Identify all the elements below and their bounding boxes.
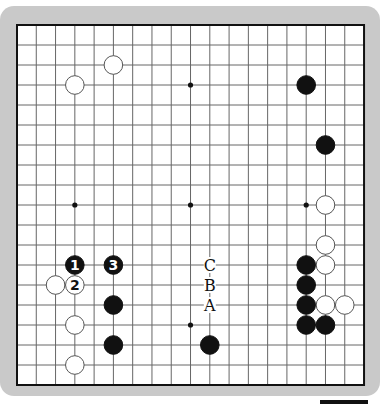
white-stone[interactable] xyxy=(316,256,335,275)
black-stone[interactable] xyxy=(316,316,335,335)
black-stone[interactable] xyxy=(297,256,316,275)
move-number-3: 3 xyxy=(109,257,119,273)
black-stone[interactable] xyxy=(297,316,316,335)
bottom-bar xyxy=(320,400,368,404)
white-stone[interactable] xyxy=(316,236,335,255)
white-stone[interactable] xyxy=(66,356,85,375)
white-stone[interactable] xyxy=(104,56,123,75)
star-point xyxy=(304,202,309,207)
black-stone[interactable] xyxy=(201,336,220,355)
star-point xyxy=(188,82,193,87)
star-point xyxy=(188,322,193,327)
white-stone[interactable] xyxy=(316,196,335,215)
black-stone[interactable] xyxy=(104,296,123,315)
white-stone[interactable] xyxy=(316,296,335,315)
white-stone[interactable] xyxy=(66,76,85,95)
marker-a: A xyxy=(203,296,216,315)
move-number-1: 1 xyxy=(70,257,80,273)
white-stone[interactable] xyxy=(46,276,65,295)
star-point xyxy=(72,202,77,207)
white-stone[interactable] xyxy=(335,296,354,315)
marker-b: B xyxy=(204,276,216,295)
go-board[interactable]: CBA132 xyxy=(0,0,382,404)
black-stone[interactable] xyxy=(297,296,316,315)
marker-c: C xyxy=(204,256,216,275)
white-stone[interactable] xyxy=(66,316,85,335)
black-stone[interactable] xyxy=(104,336,123,355)
black-stone[interactable] xyxy=(297,276,316,295)
black-stone[interactable] xyxy=(297,76,316,95)
star-point xyxy=(188,202,193,207)
move-number-2: 2 xyxy=(70,277,80,293)
black-stone[interactable] xyxy=(316,136,335,155)
